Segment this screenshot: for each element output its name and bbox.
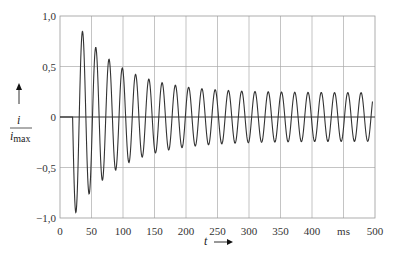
y-tick-label: 1,0 bbox=[42, 10, 56, 22]
y-tick-label: −1,0 bbox=[36, 212, 56, 224]
y-tick-label: −0,5 bbox=[36, 162, 56, 174]
x-label: t bbox=[204, 234, 208, 248]
x-tick-label: 350 bbox=[272, 225, 289, 237]
x-tick-label: 150 bbox=[146, 225, 163, 237]
x-tick-label: 100 bbox=[115, 225, 132, 237]
x-tick-label: 300 bbox=[241, 225, 258, 237]
x-tick-label: 50 bbox=[86, 225, 98, 237]
y-axis-label: i imax bbox=[10, 83, 32, 144]
line-chart: 1,00,50−0,5−1,0 050100150200250300350400… bbox=[0, 0, 394, 258]
x-axis-ticks: 050100150200250300350400ms500 bbox=[57, 225, 384, 237]
y-tick-label: 0,5 bbox=[42, 61, 56, 73]
arrow-right-icon-head bbox=[227, 239, 233, 245]
y-tick-label: 0 bbox=[51, 111, 57, 123]
x-tick-label: 400 bbox=[304, 225, 321, 237]
x-tick-label: 500 bbox=[367, 225, 384, 237]
x-tick-label: 250 bbox=[209, 225, 226, 237]
y-label-denominator: imax bbox=[10, 129, 31, 144]
y-axis-ticks: 1,00,50−0,5−1,0 bbox=[36, 10, 56, 224]
current-waveform bbox=[60, 32, 372, 213]
x-tick-label: 0 bbox=[57, 225, 63, 237]
arrow-up-icon-head bbox=[16, 83, 22, 90]
x-tick-label: 200 bbox=[178, 225, 195, 237]
y-label-numerator: i bbox=[17, 113, 20, 127]
x-tick-label: ms bbox=[337, 225, 350, 237]
